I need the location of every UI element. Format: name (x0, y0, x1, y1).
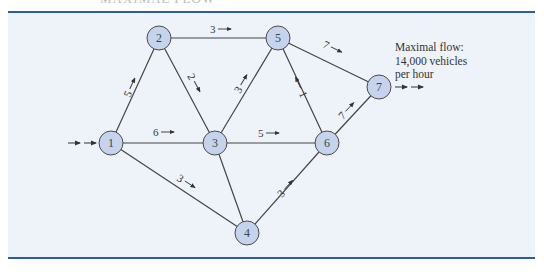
svg-text:2: 2 (185, 71, 198, 81)
flow-label-2-5: 3 (210, 23, 231, 35)
flow-label-2-3: 2 (185, 71, 205, 94)
svg-text:5: 5 (275, 31, 281, 45)
flow-label-1-4: 3 (175, 172, 198, 193)
annotation-line-1: Maximal flow: (395, 41, 467, 55)
svg-text:3: 3 (231, 84, 244, 95)
node-2: 2 (147, 26, 171, 50)
svg-text:2: 2 (156, 31, 162, 45)
flow-label-3-5: 3 (231, 72, 252, 95)
svg-text:3: 3 (212, 136, 218, 150)
flow-label-1-2: 5 (121, 76, 140, 99)
flow-label-6-7: 7 (336, 99, 358, 122)
flow-label-3-6: 5 (258, 127, 279, 139)
flow-label-5-7: 7 (321, 38, 344, 58)
flow-label-1-3: 6 (153, 126, 174, 138)
annotation-line-2: 14,000 vehicles (395, 55, 467, 69)
edge-4-6 (247, 143, 327, 233)
annotation-line-3: per hour (395, 68, 467, 82)
svg-text:5: 5 (121, 88, 134, 99)
edge-1-2 (111, 38, 159, 143)
node-6: 6 (315, 131, 339, 155)
node-3: 3 (203, 131, 227, 155)
flow-label-6-5: 1 (290, 75, 310, 100)
svg-text:3: 3 (175, 172, 187, 185)
edge-2-3 (159, 38, 215, 143)
edge-1-4 (111, 143, 247, 233)
edge-3-4 (215, 143, 247, 233)
node-4: 4 (235, 221, 259, 245)
node-7: 7 (367, 75, 391, 99)
svg-text:4: 4 (244, 226, 250, 240)
node-5: 5 (266, 26, 290, 50)
nodes: 1 2 3 4 5 6 7 (99, 26, 391, 245)
svg-text:3: 3 (210, 23, 216, 35)
svg-text:7: 7 (321, 38, 332, 51)
svg-text:7: 7 (376, 80, 382, 94)
edge-3-5 (215, 38, 278, 143)
svg-text:1: 1 (108, 136, 114, 150)
maximal-flow-annotation: Maximal flow: 14,000 vehicles per hour (395, 41, 467, 82)
edges (111, 38, 379, 233)
svg-text:6: 6 (153, 126, 159, 138)
svg-text:1: 1 (297, 89, 310, 99)
svg-text:6: 6 (324, 136, 330, 150)
edge-6-5 (278, 38, 327, 143)
svg-text:5: 5 (258, 127, 264, 139)
node-1: 1 (99, 131, 123, 155)
